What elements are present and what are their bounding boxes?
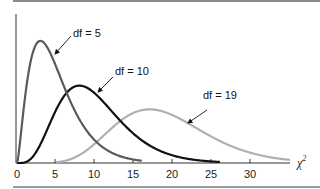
- x-tick-label: 20: [166, 168, 178, 180]
- x-ticks: [55, 159, 250, 163]
- curve-df-5: [17, 41, 142, 163]
- x-axis-label: χ2: [296, 154, 306, 170]
- arrow-df10: [98, 77, 113, 92]
- x-tick-label: 0: [14, 168, 20, 180]
- x-tick-label: 25: [205, 168, 217, 180]
- bottom-rule: [13, 186, 320, 188]
- x-tick-label: 15: [127, 168, 139, 180]
- x-tick-label: 10: [88, 168, 100, 180]
- x-tick-label: 30: [244, 168, 256, 180]
- arrow-df5: [55, 36, 71, 54]
- label-df19: df = 19: [203, 89, 237, 101]
- label-df5: df = 5: [73, 27, 101, 39]
- x-tick-label: 5: [52, 168, 58, 180]
- chi-square-chart: 0 5 10 15 20 25 30 χ2 df = 5 df = 10 df …: [0, 0, 320, 189]
- label-df10: df = 10: [115, 65, 149, 77]
- arrow-df19: [188, 110, 207, 123]
